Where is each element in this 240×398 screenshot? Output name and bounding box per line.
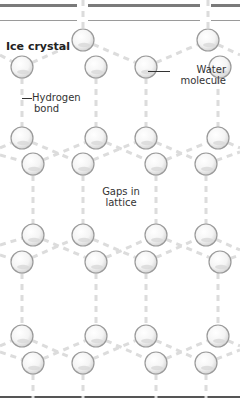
water-molecule <box>22 224 44 246</box>
water-molecule <box>135 325 157 347</box>
water-molecule <box>135 127 157 149</box>
water-molecule <box>11 56 33 78</box>
water-molecule <box>145 352 167 374</box>
water-molecule <box>85 325 107 347</box>
water-molecule <box>11 127 33 149</box>
water-molecule <box>145 224 167 246</box>
water-molecule-label: Water molecule <box>160 64 226 86</box>
hydrogen-bond-leader-line <box>22 98 32 99</box>
hydrogen-bond-label-line-2: bond <box>32 103 81 114</box>
water-molecule <box>22 352 44 374</box>
water-molecule <box>195 224 217 246</box>
water-molecule <box>72 352 94 374</box>
water-molecule <box>11 251 33 273</box>
water-molecule <box>72 29 94 51</box>
water-molecule <box>195 352 217 374</box>
hydrogen-bond-label-line-1: Hydrogen <box>32 92 81 103</box>
water-molecule <box>195 153 217 175</box>
water-molecule <box>135 56 157 78</box>
water-molecule <box>197 29 219 51</box>
hydrogen-bond-label: Hydrogen bond <box>32 92 81 114</box>
water-molecule <box>207 127 229 149</box>
water-molecule <box>22 153 44 175</box>
water-molecule <box>209 251 231 273</box>
gaps-label-line-2: lattice <box>96 197 146 208</box>
water-molecule <box>72 224 94 246</box>
water-molecule <box>85 127 107 149</box>
water-molecule <box>85 251 107 273</box>
water-molecule <box>207 325 229 347</box>
water-molecule <box>135 251 157 273</box>
gaps-in-lattice-label: Gaps in lattice <box>96 186 146 208</box>
top-border <box>0 4 240 21</box>
water-molecule-label-line-2: molecule <box>160 75 226 86</box>
water-molecule <box>11 325 33 347</box>
gaps-label-line-1: Gaps in <box>96 186 146 197</box>
water-molecule <box>145 153 167 175</box>
diagram-title: Ice crystal <box>6 40 70 53</box>
water-molecule <box>85 56 107 78</box>
water-molecule <box>72 153 94 175</box>
water-molecule-label-line-1: Water <box>160 64 226 75</box>
